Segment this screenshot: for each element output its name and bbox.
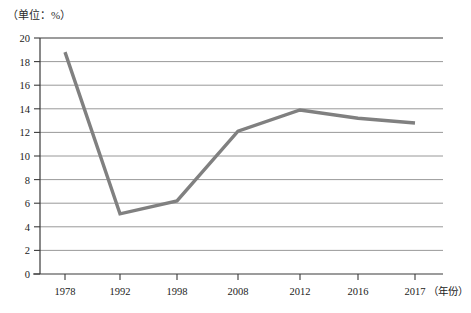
x-axis-title: （年份） <box>428 285 468 297</box>
y-tick-marks <box>34 38 40 274</box>
x-tick-label-2008: 2008 <box>228 286 249 297</box>
x-tick-label-2016: 2016 <box>348 286 369 297</box>
gridlines-group <box>40 38 443 250</box>
x-tick-marks <box>65 274 415 280</box>
x-tick-label-2017: 2017 <box>405 286 426 297</box>
y-tick-label-0: 0 <box>25 269 30 280</box>
line-chart-plot: 20 18 16 14 12 10 8 6 4 2 0 1978 1992 19… <box>0 0 471 313</box>
y-tick-label-14: 14 <box>20 104 31 115</box>
x-tick-label-1978: 1978 <box>55 286 76 297</box>
y-tick-label-4: 4 <box>25 222 31 233</box>
y-tick-label-6: 6 <box>25 198 30 209</box>
x-tick-label-2012: 2012 <box>290 286 311 297</box>
x-tick-label-1992: 1992 <box>110 286 131 297</box>
data-series-line <box>65 52 415 214</box>
x-tick-label-1998: 1998 <box>167 286 188 297</box>
y-tick-label-2: 2 <box>25 245 30 256</box>
y-tick-label-16: 16 <box>20 80 31 91</box>
y-tick-label-12: 12 <box>20 127 31 138</box>
y-tick-label-18: 18 <box>20 57 31 68</box>
y-tick-label-20: 20 <box>20 33 31 44</box>
y-tick-label-8: 8 <box>25 175 30 186</box>
chart-container: （单位：%） <box>0 0 471 313</box>
y-tick-label-10: 10 <box>20 151 31 162</box>
